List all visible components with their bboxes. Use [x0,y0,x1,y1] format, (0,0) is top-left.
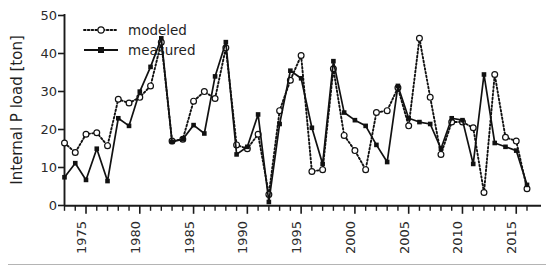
data-point-modeled-2008 [438,152,444,158]
y-tick-label-20: 20 [40,122,57,137]
x-tick-label-1995: 1995 [289,221,304,254]
legend-swatch-modeled-marker [98,27,104,33]
x-tick-label-2010: 2010 [450,221,465,254]
y-tick-label-10: 10 [40,160,57,175]
y-tick-label-40: 40 [40,46,57,61]
x-tick-label-2005: 2005 [397,221,412,254]
data-point-modeled-1979 [126,100,132,106]
series-line-measured [65,38,528,202]
chart-legend: modeled measured [84,22,195,58]
y-axis-ticks: 50 40 30 20 10 0 [40,8,64,213]
data-point-modeled-2011 [470,125,476,131]
data-point-modeled-1996 [309,169,315,175]
data-point-modeled-2006 [417,35,423,41]
series-line-modeled [65,38,528,194]
data-point-modeled-1987 [212,96,218,102]
data-point-measured-1999 [342,110,347,115]
data-point-measured-1997 [320,162,325,167]
data-point-measured-2000 [353,118,358,123]
data-point-measured-1980 [137,89,142,94]
y-tick-label-0: 0 [49,198,57,213]
data-point-measured-1987 [213,74,218,79]
data-point-modeled-2007 [427,94,433,100]
data-point-modeled-2014 [503,134,509,140]
data-point-measured-1975 [84,178,89,183]
y-axis-title-text: Internal P load [ton] [8,35,26,185]
data-point-measured-1976 [94,146,99,151]
data-point-measured-2011 [471,162,476,167]
legend-item-modeled[interactable]: modeled [84,22,187,38]
legend-item-measured[interactable]: measured [84,42,195,58]
data-point-measured-1981 [148,65,153,70]
data-point-measured-2010 [460,118,465,123]
y-tick-label-30: 30 [40,84,57,99]
data-point-measured-1978 [116,116,121,121]
data-point-modeled-1977 [105,143,111,149]
data-point-measured-1982 [159,36,164,41]
data-point-measured-2007 [428,122,433,127]
data-point-modeled-2001 [363,167,369,173]
data-point-measured-2013 [492,141,497,146]
data-point-measured-1973 [62,175,67,180]
data-point-measured-1994 [288,68,293,73]
data-point-measured-1984 [181,137,186,142]
data-point-modeled-1997 [320,167,326,173]
data-point-modeled-1978 [115,96,121,102]
data-point-modeled-2000 [352,148,358,154]
data-point-measured-2016 [525,183,530,188]
legend-label-modeled: modeled [128,22,187,38]
x-tick-label-1985: 1985 [182,221,197,254]
data-point-measured-2001 [363,124,368,129]
data-point-measured-2006 [417,120,422,125]
data-point-measured-2009 [449,116,454,121]
data-point-measured-1995 [299,76,304,81]
data-point-measured-1977 [105,179,110,184]
data-point-modeled-1981 [148,83,154,89]
data-point-measured-1974 [73,161,78,166]
x-tick-label-1990: 1990 [235,221,250,254]
data-point-modeled-2013 [492,72,498,78]
chart-container: Internal P load [ton] 50 40 30 20 10 0 1… [0,0,554,272]
x-axis-ticks [65,206,528,214]
data-point-modeled-1974 [72,150,78,156]
data-point-modeled-1973 [62,140,68,146]
data-point-measured-2005 [406,116,411,121]
chart-series-group [62,35,530,204]
internal-p-load-line-chart: Internal P load [ton] 50 40 30 20 10 0 1… [0,0,554,272]
data-point-measured-2003 [385,160,390,165]
data-point-modeled-2002 [374,110,380,116]
data-point-measured-1983 [170,140,175,145]
data-point-measured-2008 [439,146,444,151]
data-point-modeled-1986 [201,89,207,95]
data-point-measured-1990 [245,145,250,150]
data-point-measured-1996 [310,125,315,130]
data-point-measured-1992 [267,200,272,205]
data-point-modeled-2003 [384,108,390,114]
data-point-measured-1988 [224,40,229,45]
data-point-modeled-1995 [298,53,304,59]
data-point-measured-2015 [514,148,519,153]
data-point-modeled-1985 [191,98,197,104]
data-point-modeled-1975 [83,131,89,137]
x-axis-tick-labels: 197519801985199019952000200520102015 [74,221,519,254]
data-point-measured-2002 [374,143,379,148]
data-point-measured-2012 [482,72,487,77]
data-point-measured-1989 [234,152,239,157]
data-point-measured-1986 [202,131,207,136]
data-point-measured-1991 [256,112,261,117]
data-point-modeled-2005 [406,123,412,129]
x-tick-label-1980: 1980 [128,221,143,254]
data-point-measured-1985 [191,123,196,128]
legend-swatch-measured-marker [98,47,104,53]
x-tick-label-2015: 2015 [504,221,519,254]
data-point-modeled-2012 [481,190,487,196]
data-point-modeled-1976 [94,130,100,136]
data-point-measured-1979 [127,124,132,129]
footer-divider [8,264,546,265]
data-point-measured-1998 [331,59,336,64]
data-point-measured-2014 [503,145,508,150]
y-axis-title: Internal P load [ton] [8,35,26,185]
x-tick-label-2000: 2000 [343,221,358,254]
x-tick-label-1975: 1975 [74,221,89,254]
y-tick-label-50: 50 [40,8,57,23]
